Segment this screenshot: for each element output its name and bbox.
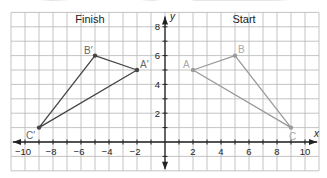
x-tick-label: −4 <box>102 146 113 157</box>
x-tick-label: −6 <box>74 146 85 157</box>
vertex-point <box>191 68 195 72</box>
x-tick-label: 2 <box>190 146 195 157</box>
vertex-point <box>233 53 237 57</box>
y-tick-label: 8 <box>155 21 160 32</box>
x-tick-label: 8 <box>274 146 279 157</box>
y-axis-up-arrow-icon <box>162 16 168 24</box>
x-axis-right-arrow-icon <box>309 139 317 145</box>
x-tick-label: −8 <box>46 146 57 157</box>
vertex-label: B <box>238 44 245 55</box>
finish-outline <box>39 56 137 128</box>
vertex-point <box>289 125 293 129</box>
y-tick-label: 6 <box>155 50 160 61</box>
x-tick-label: 6 <box>246 146 251 157</box>
finish-triangle: A′B′C′ <box>26 45 149 141</box>
y-axis-down-arrow-icon <box>162 162 168 170</box>
x-tick-label: 4 <box>218 146 223 157</box>
vertex-label: A′ <box>140 59 149 70</box>
finish-panel-label: Finish <box>75 13 104 25</box>
coordinate-plane: −10−8−6−4−22468102468 ABC A′B′C′ Finish … <box>0 0 327 178</box>
vertex-label: C <box>289 131 296 142</box>
y-tick-label: 4 <box>155 79 160 90</box>
y-axis-label: y <box>169 11 176 22</box>
vertex-point <box>93 53 97 57</box>
x-axis-label: x <box>313 128 320 139</box>
x-tick-label: −2 <box>130 146 141 157</box>
vertex-point <box>135 68 139 72</box>
vertex-label: A <box>183 59 190 70</box>
x-axis-left-arrow-icon <box>13 139 21 145</box>
start-panel-label: Start <box>232 13 255 25</box>
vertex-label: B′ <box>84 45 93 56</box>
x-tick-label: −10 <box>15 146 31 157</box>
y-tick-label: 2 <box>155 108 160 119</box>
start-outline <box>193 56 291 128</box>
x-tick-label: 10 <box>300 146 311 157</box>
axis-ticks: −10−8−6−4−22468102468 <box>15 21 310 157</box>
vertex-label: C′ <box>26 130 35 141</box>
axes <box>13 16 317 169</box>
start-triangle: ABC <box>183 44 296 142</box>
vertex-point <box>37 125 41 129</box>
